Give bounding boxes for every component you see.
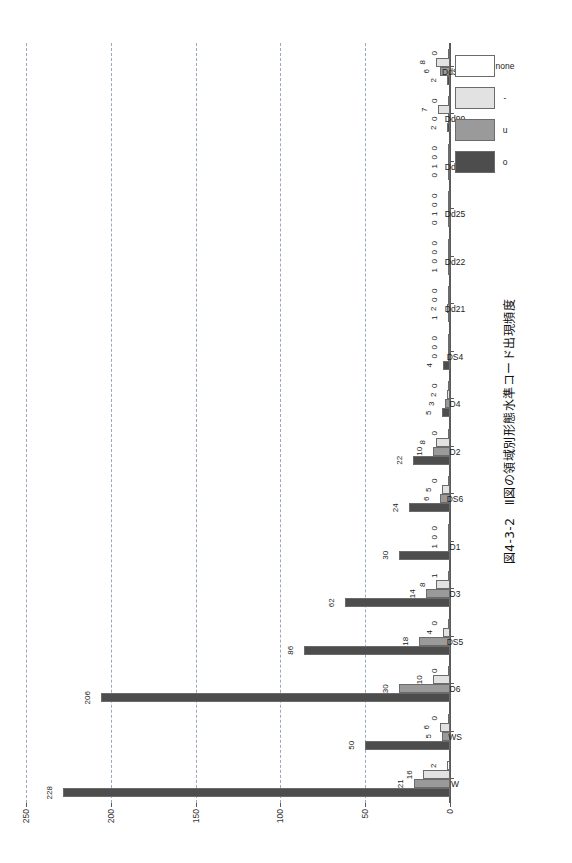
bar-value-label: 2 <box>430 764 438 768</box>
bar-value-label: 0 <box>431 289 439 293</box>
value-tick-label: 0 <box>445 809 455 814</box>
chart-stage: 05010015020025022821162W50560WS20630100D… <box>0 0 572 863</box>
bar-value-label: 1 <box>431 212 439 216</box>
bar-group: 1200Dd21 <box>26 281 450 329</box>
legend-swatch <box>455 55 495 77</box>
bar: 0 <box>448 714 450 723</box>
bar: 0 <box>448 286 450 295</box>
bar-value-label: 0 <box>431 194 439 198</box>
bar-value-label: 7 <box>421 108 429 112</box>
bar-value-label: 24 <box>392 503 400 512</box>
value-tick-label: 100 <box>275 809 285 823</box>
bar-value-label: 5 <box>425 411 433 415</box>
bar-group: 50560WS <box>26 708 450 756</box>
bar-value-label: 0 <box>431 259 439 263</box>
bar: 0 <box>448 619 450 628</box>
category-label: DS5 <box>447 637 464 647</box>
figure-title: 図4-3-2 Ⅱ図の領域別形態水準コード出現頻度 <box>500 0 517 863</box>
bar: 30 <box>399 551 450 560</box>
bar-group: 20630100D6 <box>26 661 450 709</box>
bar-group: 621481D3 <box>26 566 450 614</box>
bar: 5 <box>442 485 450 494</box>
bar-value-label: 8 <box>419 440 427 444</box>
bar-value-label: 2 <box>430 126 438 130</box>
category-label: D2 <box>450 447 461 457</box>
bar-value-label: 6 <box>423 725 431 729</box>
legend-swatch <box>455 151 495 173</box>
bar-value-label: 22 <box>396 456 404 465</box>
bar: 0 <box>448 96 450 105</box>
bar-value-label: 3 <box>428 402 436 406</box>
bar-value-label: 6 <box>423 497 431 501</box>
category-label: Dd22 <box>445 257 465 267</box>
bar: 1 <box>448 571 450 580</box>
bar: 2 <box>447 76 450 85</box>
category-tick-mark <box>450 113 454 114</box>
category-label: D4 <box>450 399 461 409</box>
bar: 21 <box>414 779 450 788</box>
bar-value-label: 21 <box>397 779 405 788</box>
bar-group: 2070Dd99 <box>26 91 450 139</box>
bar-group: 22821162W <box>26 756 450 804</box>
value-tick-label: 250 <box>21 809 31 823</box>
bar-value-label: 2 <box>430 307 438 311</box>
category-tick-mark <box>450 778 454 779</box>
bar-value-label: 0 <box>431 479 439 483</box>
bar-value-label: 6 <box>423 69 431 73</box>
bar-value-label: 0 <box>431 526 439 530</box>
bar-group: 4000DS4 <box>26 328 450 376</box>
bar-group: 5320D4 <box>26 376 450 424</box>
bar-value-label: 0 <box>431 716 439 720</box>
bar-value-label: 4 <box>426 363 434 367</box>
bar: 50 <box>365 741 450 750</box>
bar: 18 <box>419 637 450 646</box>
bar-value-label: 1 <box>431 316 439 320</box>
category-tick-mark <box>450 493 454 494</box>
category-tick-mark <box>450 636 454 637</box>
bar-value-label: 30 <box>382 684 390 693</box>
bar: 2 <box>447 761 450 770</box>
bar-value-label: 1 <box>431 544 439 548</box>
bar-value-label: 86 <box>287 646 295 655</box>
category-label: D1 <box>450 542 461 552</box>
value-tick-label: 200 <box>106 809 116 823</box>
category-label: WS <box>448 732 462 742</box>
bar-value-label: 0 <box>431 173 439 177</box>
bar-value-label: 1 <box>431 268 439 272</box>
bar-value-label: 4 <box>426 630 434 634</box>
bar: 0 <box>448 666 450 675</box>
bar-value-label: 18 <box>402 637 410 646</box>
bar: 0 <box>448 239 450 248</box>
bar-value-label: 5 <box>425 734 433 738</box>
bar: 2 <box>447 123 450 132</box>
bar-value-label: 0 <box>431 336 439 340</box>
category-tick-mark <box>450 351 454 352</box>
bar-value-label: 5 <box>425 488 433 492</box>
bar-group: 861840DS5 <box>26 613 450 661</box>
bar-value-label: 0 <box>431 621 439 625</box>
bar: 24 <box>409 503 450 512</box>
bar-value-label: 1 <box>431 574 439 578</box>
bar: 228 <box>63 788 450 797</box>
bar: 0 <box>448 144 450 153</box>
bar: 0 <box>448 49 450 58</box>
value-tick-mark <box>365 803 366 807</box>
bar: 0 <box>448 334 450 343</box>
bar-value-label: 0 <box>431 669 439 673</box>
bar-value-label: 0 <box>431 203 439 207</box>
category-tick-mark <box>450 446 454 447</box>
bar-group: 0100Dd25 <box>26 186 450 234</box>
bar: 14 <box>426 589 450 598</box>
value-tick-label: 150 <box>191 809 201 823</box>
bar-value-label: 0 <box>431 345 439 349</box>
bar: 4 <box>443 628 450 637</box>
bar: 0 <box>448 429 450 438</box>
category-tick-mark <box>450 683 454 684</box>
bar-value-label: 0 <box>431 51 439 55</box>
bar-value-label: 8 <box>419 60 427 64</box>
bar: 4 <box>443 361 450 370</box>
bar-value-label: 50 <box>348 741 356 750</box>
bar-value-label: 0 <box>431 535 439 539</box>
bar-value-label: 10 <box>416 447 424 456</box>
category-label: Dd21 <box>445 304 465 314</box>
